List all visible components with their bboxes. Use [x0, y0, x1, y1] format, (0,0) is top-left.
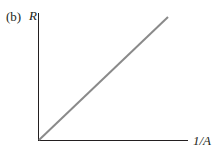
plot-area [0, 0, 221, 147]
data-line [39, 17, 168, 140]
